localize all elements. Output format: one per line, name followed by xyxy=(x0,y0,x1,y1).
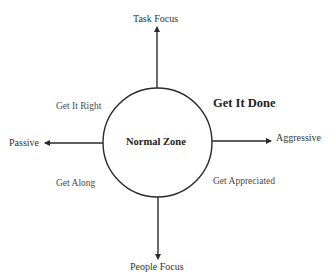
quadrant-label-get-it-right: Get It Right xyxy=(56,102,101,112)
axis-label-passive: Passive xyxy=(9,138,39,148)
quadrant-label-get-it-done: Get It Done xyxy=(213,97,276,110)
axis-label-task-focus: Task Focus xyxy=(133,14,178,24)
quadrant-label-get-appreciated: Get Appreciated xyxy=(213,177,275,187)
axis-label-people-focus: People Focus xyxy=(130,262,184,272)
center-label-normal-zone: Normal Zone xyxy=(126,137,186,148)
axis-label-aggressive: Aggressive xyxy=(276,133,321,143)
quadrant-label-get-along: Get Along xyxy=(56,179,95,189)
